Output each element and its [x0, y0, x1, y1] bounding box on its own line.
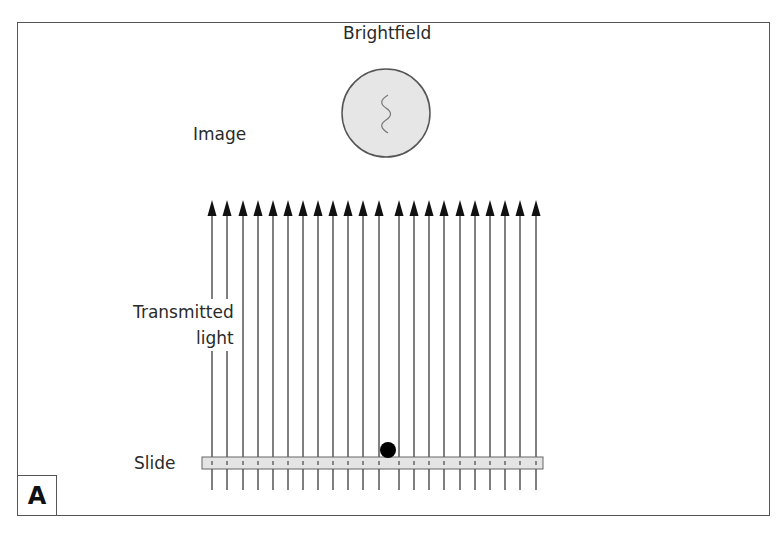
image-circle	[342, 69, 430, 157]
panel-label: A	[17, 475, 57, 516]
label-transmitted: Transmitted light	[133, 299, 234, 351]
arrow-head-icon	[223, 200, 232, 216]
arrow-head-icon	[329, 200, 338, 216]
slide	[202, 457, 543, 469]
arrow-head-icon	[410, 200, 419, 216]
label-transmitted-line2: light	[133, 325, 234, 351]
arrow-head-icon	[254, 200, 263, 216]
arrow-head-icon	[456, 200, 465, 216]
arrow-head-icon	[532, 200, 541, 216]
arrow-head-icon	[284, 200, 293, 216]
label-image: Image	[193, 124, 246, 144]
arrow-head-icon	[501, 200, 510, 216]
title-brightfield: Brightfield	[343, 23, 431, 43]
arrow-head-icon	[208, 200, 217, 216]
arrow-head-icon	[344, 200, 353, 216]
arrow-head-icon	[375, 200, 384, 216]
arrow-head-icon	[395, 200, 404, 216]
arrow-head-icon	[471, 200, 480, 216]
arrow-head-icon	[359, 200, 368, 216]
label-transmitted-line1: Transmitted	[133, 299, 234, 325]
arrow-head-icon	[516, 200, 525, 216]
rays-over-slide	[212, 469, 536, 490]
arrow-head-icon	[440, 200, 449, 216]
arrow-head-icon	[486, 200, 495, 216]
arrow-head-icon	[239, 200, 248, 216]
specimen-dot	[380, 442, 396, 458]
transmitted-light-rays	[208, 200, 541, 457]
brightfield-diagram	[0, 0, 782, 534]
arrow-head-icon	[299, 200, 308, 216]
arrow-head-icon	[314, 200, 323, 216]
label-slide: Slide	[134, 453, 176, 473]
arrow-head-icon	[269, 200, 278, 216]
arrow-head-icon	[425, 200, 434, 216]
